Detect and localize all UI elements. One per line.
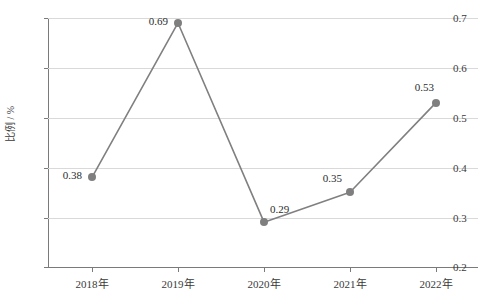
data-point-marker-2019[interactable] <box>174 19 182 27</box>
series-polyline <box>92 23 436 222</box>
data-label-2022: 0.53 <box>415 81 434 93</box>
data-label-2018: 0.38 <box>63 169 82 181</box>
line-chart-figure: 比例 / % 0.7 0.6 0.5 0.4 0.3 0.2 2018年 201… <box>0 0 495 299</box>
series-line-layer <box>0 0 495 299</box>
data-label-2021: 0.35 <box>323 172 342 184</box>
data-label-2020: 0.29 <box>270 203 289 215</box>
data-label-2019: 0.69 <box>149 15 168 27</box>
data-point-marker-2022[interactable] <box>432 99 440 107</box>
